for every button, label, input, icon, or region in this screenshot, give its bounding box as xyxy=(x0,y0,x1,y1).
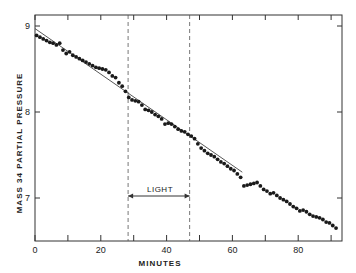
data-point xyxy=(262,188,266,192)
data-point xyxy=(61,48,65,52)
data-point xyxy=(166,121,170,125)
chart: 020406080 789 LIGHT MINUTES MASS 34 PART… xyxy=(0,0,356,273)
data-point xyxy=(51,41,55,45)
data-point xyxy=(275,194,279,198)
y-axis-title: MASS 34 PARTIAL PRESSURE xyxy=(15,73,24,214)
data-point xyxy=(133,99,137,103)
data-point xyxy=(81,59,85,63)
data-point xyxy=(199,146,203,150)
data-point xyxy=(252,181,256,185)
data-point xyxy=(107,71,111,75)
data-point xyxy=(58,41,62,45)
data-point xyxy=(160,117,164,121)
data-point xyxy=(229,167,233,171)
data-point xyxy=(127,95,131,99)
data-point xyxy=(212,155,216,159)
data-point xyxy=(235,172,239,176)
light-arrow xyxy=(128,194,190,199)
data-point xyxy=(281,198,285,202)
data-point xyxy=(242,184,246,188)
light-label: LIGHT xyxy=(147,185,173,194)
data-point xyxy=(78,57,82,61)
x-tick-label: 80 xyxy=(293,245,303,255)
arrow-right-head-icon xyxy=(185,194,190,199)
data-point xyxy=(54,43,58,47)
data-point xyxy=(140,103,144,107)
data-point xyxy=(147,108,151,112)
data-point xyxy=(153,113,157,117)
data-point xyxy=(203,149,207,153)
y-tick-label: 7 xyxy=(25,193,30,203)
x-tick-label: 40 xyxy=(162,245,172,255)
data-point xyxy=(258,184,262,188)
data-point xyxy=(38,35,42,39)
data-point xyxy=(255,181,259,185)
y-tick-label: 9 xyxy=(25,21,30,31)
x-tick-label: 60 xyxy=(227,245,237,255)
data-point xyxy=(219,160,223,164)
data-point xyxy=(117,81,121,85)
data-point xyxy=(305,210,309,214)
x-axis-title: MINUTES xyxy=(139,259,182,268)
y-tick-label: 8 xyxy=(25,107,30,117)
data-point xyxy=(110,74,114,78)
data-point xyxy=(295,206,299,210)
data-point xyxy=(232,169,236,173)
data-point xyxy=(114,76,118,80)
data-points xyxy=(35,34,338,230)
data-point xyxy=(173,125,177,129)
x-tick-label: 0 xyxy=(32,245,37,255)
data-point xyxy=(48,40,52,44)
data-point xyxy=(163,122,167,126)
y-axis-ticks: 789 xyxy=(25,21,342,203)
data-point xyxy=(226,164,230,168)
data-point xyxy=(298,209,302,213)
data-point xyxy=(156,114,160,118)
data-point xyxy=(97,66,101,70)
data-point xyxy=(265,189,269,193)
data-point xyxy=(331,224,335,228)
data-point xyxy=(321,218,325,222)
data-point xyxy=(183,130,187,134)
data-point xyxy=(288,202,292,206)
data-point xyxy=(285,200,289,204)
data-point xyxy=(186,132,190,136)
data-point xyxy=(308,212,312,216)
light-period-markers xyxy=(128,15,190,241)
data-point xyxy=(193,137,197,141)
data-point xyxy=(87,62,91,66)
x-tick-label: 20 xyxy=(96,245,106,255)
data-point xyxy=(239,175,243,179)
data-point xyxy=(124,89,128,93)
data-point xyxy=(216,157,220,161)
data-point xyxy=(170,122,174,126)
data-point xyxy=(272,191,276,195)
data-point xyxy=(137,100,141,104)
data-point xyxy=(189,134,193,138)
data-point xyxy=(245,183,249,187)
data-point xyxy=(222,162,226,166)
data-point xyxy=(318,216,322,220)
data-point xyxy=(68,50,72,54)
data-point xyxy=(206,151,210,155)
data-point xyxy=(249,182,253,186)
data-point xyxy=(334,226,338,230)
data-point xyxy=(35,34,39,38)
data-point xyxy=(41,37,45,41)
data-point xyxy=(311,214,315,218)
data-point xyxy=(120,84,124,88)
data-point xyxy=(301,208,305,212)
data-point xyxy=(291,205,295,209)
data-point xyxy=(176,127,180,131)
arrow-left-head-icon xyxy=(128,194,133,199)
data-point xyxy=(196,142,200,146)
data-point xyxy=(45,39,49,43)
data-point xyxy=(324,220,328,224)
data-point xyxy=(74,55,78,59)
data-point xyxy=(180,129,184,133)
data-point xyxy=(278,196,282,200)
data-point xyxy=(150,110,154,114)
data-point xyxy=(314,215,318,219)
data-point xyxy=(130,98,134,102)
data-point xyxy=(94,65,98,69)
